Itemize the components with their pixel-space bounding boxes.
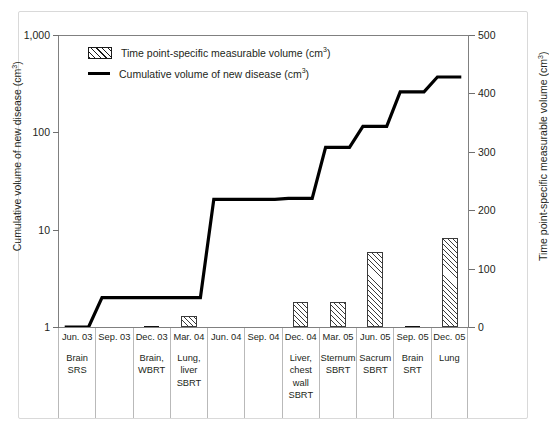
category-date-label: Mar. 04 xyxy=(171,331,207,344)
tick-right-300 xyxy=(469,152,475,153)
category-column-7: Mar. 05SternumSBRT xyxy=(319,328,356,418)
tick-right-0 xyxy=(469,327,475,328)
category-date-label: Sep. 05 xyxy=(394,331,430,344)
category-date-label: Dec. 05 xyxy=(432,331,467,344)
y-axis-title-right-sup: 3 xyxy=(537,55,544,59)
cumulative-line-svg xyxy=(58,35,468,327)
x-axis-categories: Jun. 03BrainSRSSep. 03Dec. 03Brain,WBRTM… xyxy=(58,328,469,420)
y-axis-title-left-sup: 3 xyxy=(11,65,18,69)
category-site-label: BrainSRT xyxy=(394,352,430,377)
category-date-label: Dec. 04 xyxy=(283,331,319,344)
category-column-10: Dec. 05Lung xyxy=(431,328,468,418)
ytick-label-left-100: 100 xyxy=(0,127,50,137)
category-date-label: Mar. 05 xyxy=(320,331,356,344)
category-column-0: Jun. 03BrainSRS xyxy=(58,328,95,418)
category-site-label: Lung,liverSBRT xyxy=(171,352,207,390)
y-axis-title-right: Time point-specific measurable volume (c… xyxy=(537,11,549,301)
ytick-label-right-100: 100 xyxy=(478,264,518,274)
category-column-5: Sep. 04 xyxy=(244,328,281,418)
category-site-label: BrainSRS xyxy=(59,352,95,377)
category-column-3: Mar. 04Lung,liverSBRT xyxy=(170,328,207,418)
tick-right-500 xyxy=(469,35,475,36)
ytick-label-right-300: 300 xyxy=(478,147,518,157)
category-date-label: Sep. 04 xyxy=(245,331,281,344)
category-column-4: Jun. 04 xyxy=(207,328,244,418)
ytick-label-right-200: 200 xyxy=(478,205,518,215)
category-site-label: SternumSBRT xyxy=(320,352,356,377)
category-site-label: Liver,chestwallSBRT xyxy=(283,352,319,402)
category-column-2: Dec. 03Brain,WBRT xyxy=(133,328,170,418)
y-axis-title-right-text: Time point-specific measurable volume (c… xyxy=(537,59,549,261)
axis-right-line xyxy=(468,35,469,327)
tick-right-200 xyxy=(469,210,475,211)
y-axis-title-left-text: Cumulative volume of new disease (cm xyxy=(11,69,23,252)
category-date-label: Dec. 03 xyxy=(134,331,170,344)
category-column-1: Sep. 03 xyxy=(95,328,132,418)
ytick-label-right-0: 0 xyxy=(478,322,518,332)
y-axis-title-left-tail: ) xyxy=(11,61,23,65)
category-date-label: Jun. 04 xyxy=(208,331,244,344)
category-site-label: Lung xyxy=(432,352,467,365)
category-column-9: Sep. 05BrainSRT xyxy=(393,328,430,418)
ytick-label-right-400: 400 xyxy=(478,88,518,98)
line-series xyxy=(58,35,468,327)
y-axis-title-right-tail: ) xyxy=(537,52,549,56)
ytick-label-left-10: 10 xyxy=(0,225,50,235)
category-column-8: Jun. 05SacrumSBRT xyxy=(356,328,393,418)
tick-right-100 xyxy=(469,269,475,270)
category-column-6: Dec. 04Liver,chestwallSBRT xyxy=(282,328,319,418)
y-axis-title-left: Cumulative volume of new disease (cm3) xyxy=(11,16,24,296)
category-date-label: Jun. 03 xyxy=(59,331,95,344)
ytick-label-right-500: 500 xyxy=(478,30,518,40)
tick-right-400 xyxy=(469,93,475,94)
ytick-label-left-1000: 1,000 xyxy=(0,30,50,40)
category-date-label: Sep. 03 xyxy=(96,331,132,344)
cumulative-line-path xyxy=(65,77,462,327)
category-site-label: SacrumSBRT xyxy=(357,352,393,377)
ytick-label-left-1: 1 xyxy=(0,322,50,332)
category-site-label: Brain,WBRT xyxy=(134,352,170,377)
category-date-label: Jun. 05 xyxy=(357,331,393,344)
